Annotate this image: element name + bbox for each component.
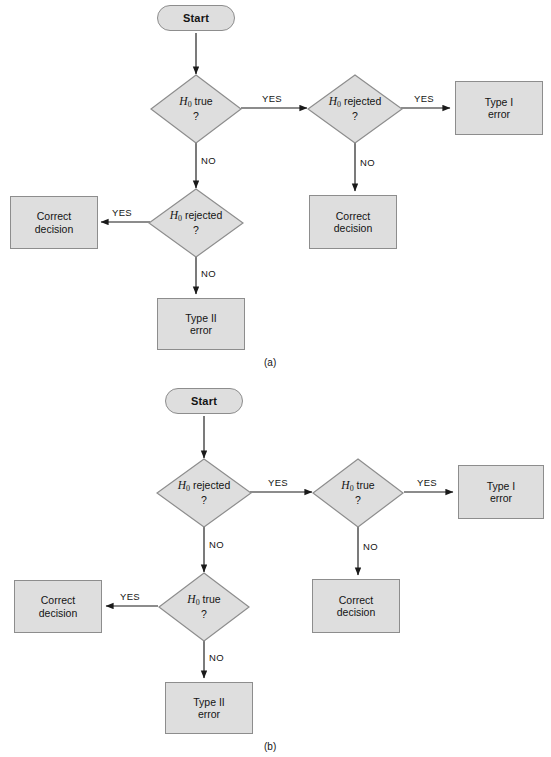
- panel-a-decision-2: H0 rejected ?: [307, 74, 403, 144]
- panel-b-type-1-error-box: Type I error: [458, 465, 544, 519]
- panel-b-caption: (b): [264, 741, 276, 752]
- correct-decision-line-2: decision: [39, 607, 78, 619]
- h-symbol: H: [187, 593, 195, 605]
- panel-a-type-2-error-box: Type II error: [157, 298, 245, 350]
- panel-b-decision-1-text: H0 rejected ?: [178, 479, 231, 506]
- h-subscript: 0: [186, 484, 190, 493]
- decision-predicate: true: [195, 95, 213, 107]
- decision-question-mark: ?: [201, 494, 207, 506]
- panel-a-start-node: Start: [157, 5, 235, 31]
- panel-a-decision-1-text: H0 true ?: [179, 95, 212, 122]
- panel-a-edge-label-no-3: NO: [201, 268, 216, 279]
- panel-a-type-1-error-box: Type I error: [455, 81, 543, 135]
- decision-predicate: rejected: [193, 479, 230, 491]
- panel-a-edge-label-no-2: NO: [360, 157, 375, 168]
- panel-a-connectors: [0, 0, 551, 378]
- panel-b: Start H0 rejected ? H0 true ?: [0, 378, 551, 757]
- h-subscript: 0: [178, 214, 182, 223]
- panel-b-edge-label-no-2: NO: [363, 541, 378, 552]
- panel-b-start-label: Start: [191, 395, 217, 408]
- panel-a-correct-decision-left-box: Correct decision: [10, 196, 98, 249]
- decision-predicate: rejected: [185, 209, 222, 221]
- panel-a-edge-label-no-1: NO: [201, 155, 216, 166]
- panel-b-decision-3: H0 true ?: [158, 572, 250, 642]
- decision-question-mark: ?: [355, 494, 361, 506]
- correct-decision-line-1: Correct: [41, 594, 75, 606]
- panel-b-edge-label-no-3: NO: [209, 652, 224, 663]
- panel-a-decision-1: H0 true ?: [150, 74, 242, 144]
- panel-b-edge-label-yes-2: YES: [417, 477, 437, 488]
- decision-predicate: rejected: [344, 95, 381, 107]
- panel-b-correct-decision-right-box: Correct decision: [312, 579, 400, 633]
- h-subscript: 0: [337, 100, 341, 109]
- decision-question-mark: ?: [352, 110, 358, 122]
- type-1-error-line-2: error: [490, 492, 512, 504]
- correct-decision-line-1: Correct: [336, 210, 370, 222]
- type-2-error-line-1: Type II: [193, 696, 225, 708]
- panel-b-edge-label-no-1: NO: [209, 539, 224, 550]
- correct-decision-line-2: decision: [337, 606, 376, 618]
- panel-b-decision-2: H0 true ?: [312, 458, 404, 528]
- type-1-error-line-2: error: [488, 108, 510, 120]
- panel-a-correct-decision-right-box: Correct decision: [309, 195, 397, 249]
- panel-b-decision-3-text: H0 true ?: [187, 593, 220, 620]
- decision-predicate: true: [203, 593, 221, 605]
- h-symbol: H: [341, 479, 349, 491]
- panel-b-decision-2-text: H0 true ?: [341, 479, 374, 506]
- type-2-error-line-1: Type II: [185, 312, 217, 324]
- panel-a-caption: (a): [264, 357, 276, 368]
- panel-a-start-label: Start: [183, 12, 209, 25]
- decision-question-mark: ?: [193, 110, 199, 122]
- type-1-error-line-1: Type I: [485, 96, 514, 108]
- h-symbol: H: [329, 95, 337, 107]
- panel-a-decision-3-text: H0 rejected ?: [170, 209, 223, 236]
- panel-a-decision-2-text: H0 rejected ?: [329, 95, 382, 122]
- decision-question-mark: ?: [201, 608, 207, 620]
- panel-b-edge-label-yes-1: YES: [268, 477, 288, 488]
- h-symbol: H: [179, 95, 187, 107]
- panel-b-edge-label-yes-3: YES: [120, 591, 140, 602]
- panel-a-edge-label-yes-1: YES: [262, 93, 282, 104]
- h-symbol: H: [178, 479, 186, 491]
- panel-b-start-node: Start: [165, 388, 243, 414]
- correct-decision-line-1: Correct: [37, 210, 71, 222]
- h-subscript: 0: [196, 598, 200, 607]
- panel-b-type-2-error-box: Type II error: [165, 682, 253, 734]
- panel-b-connectors: [0, 378, 551, 757]
- type-2-error-line-2: error: [190, 324, 212, 336]
- decision-question-mark: ?: [193, 224, 199, 236]
- panel-a-edge-label-yes-2: YES: [414, 93, 434, 104]
- decision-predicate: true: [357, 479, 375, 491]
- correct-decision-line-1: Correct: [339, 594, 373, 606]
- panel-a-edge-label-yes-3: YES: [112, 207, 132, 218]
- panel-a: Start H0 true ? H0 rejected ?: [0, 0, 551, 378]
- type-2-error-line-2: error: [198, 708, 220, 720]
- correct-decision-line-2: decision: [35, 223, 74, 235]
- panel-b-correct-decision-left-box: Correct decision: [14, 580, 102, 633]
- panel-b-decision-1: H0 rejected ?: [156, 458, 252, 528]
- panel-a-decision-3: H0 rejected ?: [148, 188, 244, 258]
- h-subscript: 0: [350, 484, 354, 493]
- h-symbol: H: [170, 209, 178, 221]
- flowchart-figure: Start H0 true ? H0 rejected ?: [0, 0, 551, 757]
- type-1-error-line-1: Type I: [487, 480, 516, 492]
- h-subscript: 0: [188, 100, 192, 109]
- correct-decision-line-2: decision: [334, 222, 373, 234]
